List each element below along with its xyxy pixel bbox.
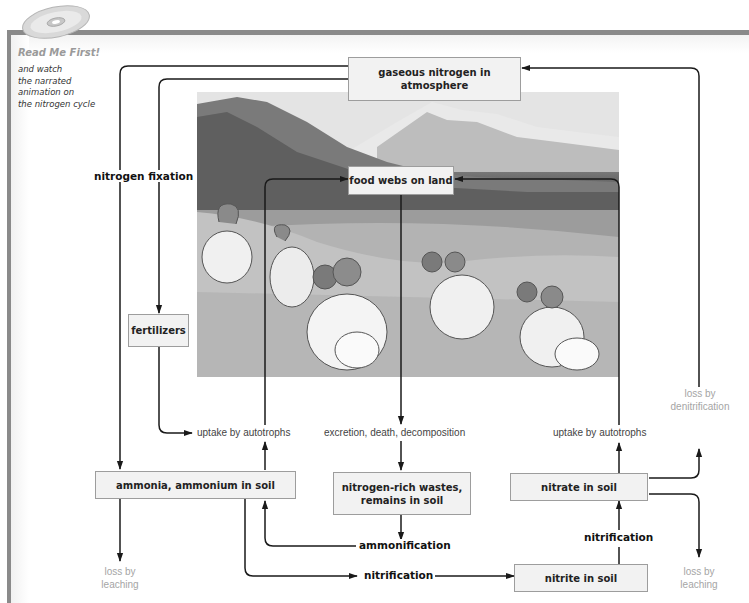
node-ammonia: ammonia, ammonium in soil bbox=[95, 471, 296, 499]
label-nitrification-bottom: nitrification bbox=[362, 569, 435, 581]
node-wastes-line1: nitrogen-rich wastes, bbox=[342, 481, 462, 494]
label-uptake-left: uptake by autotrophs bbox=[197, 427, 290, 438]
loss-line: leaching bbox=[674, 578, 724, 591]
arrow-to-fertilizers bbox=[159, 79, 348, 313]
arrow-uptake-to-foodwebs bbox=[265, 179, 348, 425]
node-atmosphere: gaseous nitrogen in atmosphere bbox=[348, 57, 521, 101]
node-fertilizers: fertilizers bbox=[128, 314, 189, 347]
label-uptake-right: uptake by autotrophs bbox=[553, 427, 646, 438]
loss-line: denitrification bbox=[664, 400, 736, 413]
node-food-webs: food webs on land bbox=[348, 166, 454, 195]
label-nitrification-right: nitrification bbox=[582, 531, 655, 543]
arrow-nitrate-leaching bbox=[649, 494, 699, 557]
label-loss-denitrification: loss by denitrification bbox=[664, 387, 736, 413]
loss-line: loss by bbox=[95, 565, 145, 578]
arrow-denitrification-to-atmosphere bbox=[522, 68, 699, 387]
node-wastes-line2: remains in soil bbox=[361, 494, 444, 507]
node-nitrite: nitrite in soil bbox=[514, 564, 648, 592]
loss-line: loss by bbox=[674, 565, 724, 578]
node-wastes: nitrogen-rich wastes, remains in soil bbox=[333, 472, 471, 515]
loss-line: loss by bbox=[664, 387, 736, 400]
label-loss-leaching-right: loss by leaching bbox=[674, 565, 724, 591]
node-nitrate: nitrate in soil bbox=[510, 473, 648, 501]
label-loss-leaching-left: loss by leaching bbox=[95, 565, 145, 591]
label-nitrogen-fixation: nitrogen fixation bbox=[92, 170, 195, 182]
arrow-fixation-to-ammonia bbox=[120, 66, 348, 469]
label-excretion: excretion, death, decomposition bbox=[324, 427, 465, 438]
label-ammonification: ammonification bbox=[357, 539, 453, 551]
loss-line: leaching bbox=[95, 578, 145, 591]
arrow-uptake-to-foodwebs-right bbox=[455, 179, 619, 425]
arrow-nitrate-denitrification bbox=[649, 449, 699, 478]
arrow-fertilizers-to-uptake bbox=[159, 347, 192, 433]
